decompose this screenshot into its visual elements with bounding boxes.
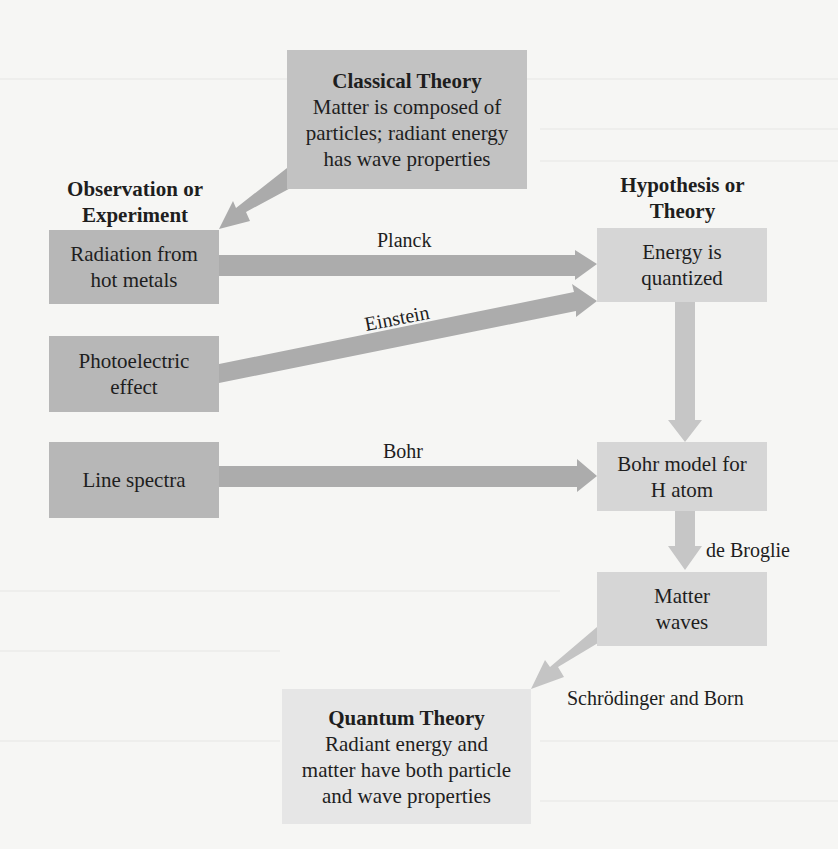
arrow-energy-to-bohr	[668, 302, 702, 442]
arrow-de-broglie	[668, 511, 702, 570]
hypothesis-text: Bohr model for	[617, 451, 746, 477]
observation-text: Photoelectric	[79, 348, 190, 374]
quantum-theory-line: Radiant energy and	[325, 731, 488, 757]
hypothesis-box-matter-waves: Matter waves	[597, 572, 767, 646]
classical-theory-line: has wave properties	[324, 146, 491, 172]
arrow-bohr	[219, 459, 597, 492]
observation-box-photoelectric: Photoelectric effect	[49, 336, 219, 412]
hypothesis-heading-line: Theory	[585, 198, 780, 224]
arrow-planck	[219, 250, 597, 280]
hypothesis-heading-line: Hypothesis or	[585, 172, 780, 198]
hypothesis-text: waves	[656, 609, 708, 635]
observation-text: Line spectra	[82, 467, 185, 493]
hypothesis-heading: Hypothesis or Theory	[585, 172, 780, 224]
arrow-schrodinger-born	[531, 627, 603, 689]
hypothesis-text: H atom	[651, 477, 713, 503]
hypothesis-text: Matter	[654, 583, 710, 609]
observation-box-line-spectra: Line spectra	[49, 442, 219, 518]
observation-heading-line: Observation or	[40, 176, 230, 202]
hypothesis-box-bohr-model: Bohr model for H atom	[597, 442, 767, 511]
arrow-einstein	[219, 284, 597, 383]
observation-text: Radiation from	[70, 241, 198, 267]
observation-text: hot metals	[91, 267, 178, 293]
observation-heading: Observation or Experiment	[40, 176, 230, 228]
label-bohr: Bohr	[383, 439, 423, 463]
observation-text: effect	[110, 374, 157, 400]
observation-heading-line: Experiment	[40, 202, 230, 228]
hypothesis-text: quantized	[641, 265, 723, 291]
quantum-theory-line: matter have both particle	[302, 757, 511, 783]
classical-theory-title: Classical Theory	[332, 68, 482, 94]
quantum-theory-line: and wave properties	[322, 783, 491, 809]
observation-box-radiation: Radiation from hot metals	[49, 230, 219, 304]
classical-theory-box: Classical Theory Matter is composed of p…	[287, 50, 527, 189]
hypothesis-box-energy-quantized: Energy is quantized	[597, 228, 767, 302]
label-schrodinger-born: Schrödinger and Born	[567, 686, 744, 710]
classical-theory-line: Matter is composed of	[313, 94, 501, 120]
quantum-theory-box: Quantum Theory Radiant energy and matter…	[282, 689, 531, 824]
hypothesis-text: Energy is	[642, 239, 722, 265]
label-de-broglie: de Broglie	[706, 538, 790, 562]
classical-theory-line: particles; radiant energy	[306, 120, 509, 146]
label-planck: Planck	[377, 228, 431, 252]
quantum-theory-title: Quantum Theory	[328, 705, 485, 731]
